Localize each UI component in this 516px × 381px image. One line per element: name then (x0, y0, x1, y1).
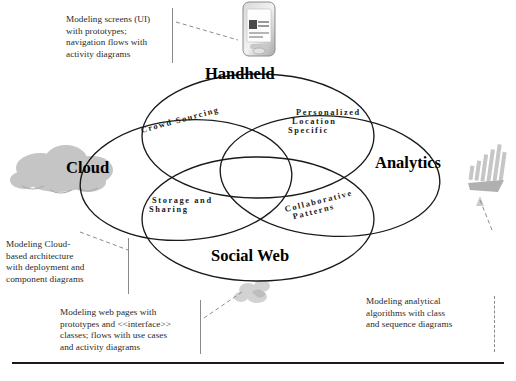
ellipse-cloud (76, 113, 296, 247)
intersection-line: Personalized (296, 108, 361, 117)
caption-divider (12, 362, 504, 364)
leader-bar-social (200, 300, 201, 354)
leader-bar-analytics (494, 296, 495, 352)
intersection-line: Sharing (149, 205, 213, 214)
set-label-handheld: Handheld (205, 64, 275, 84)
set-label-analytics: Analytics (375, 153, 441, 173)
caption-text (12, 371, 504, 379)
callout-analytics: Modeling analytical algorithms with clas… (366, 296, 486, 331)
intersection-line: Specific (288, 126, 361, 135)
intersection-line: Location (292, 117, 361, 126)
intersection-line: Storage and (152, 196, 213, 205)
intersection-label-storage-sharing: Storage and Sharing (152, 196, 213, 214)
ellipse-handheld (142, 74, 374, 198)
leader-bar-cloud (128, 238, 129, 294)
callout-cloud: Modeling Cloud- based architecture with … (6, 239, 124, 285)
social-web-icon (234, 280, 270, 303)
figure-page: Modeling screens (UI) with prototypes; n… (0, 0, 516, 381)
intersection-label-personalized-location: Personalized Location Specific (296, 108, 361, 135)
set-label-social-web: Social Web (211, 246, 289, 266)
bar-chart-icon (468, 141, 508, 206)
callout-social-web: Modeling web pages with prototypes and <… (60, 307, 195, 353)
callout-handheld: Modeling screens (UI) with prototypes; n… (66, 14, 184, 60)
smartphone-icon (243, 2, 275, 56)
set-label-cloud: Cloud (66, 158, 109, 178)
